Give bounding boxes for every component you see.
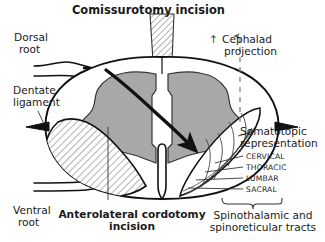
tracts-caption-line2: spinoreticular tracts [205, 222, 321, 234]
somatotopic-layer-thoracic: THORACIC [246, 164, 287, 173]
ventral-median-fissure [158, 144, 166, 199]
cordotomy-title-line2: incision [58, 221, 206, 233]
somatotopic-label-line2: representation [240, 138, 318, 150]
commissurotomy-title: Comissurotomy incision [72, 4, 212, 17]
somatotopic-layer-cervical: CERVICAL [246, 153, 285, 162]
cephalad-arrow-glyph: ↑ [209, 34, 218, 46]
dorsal-root-label-line2: root [19, 44, 40, 56]
somatotopic-layer-sacral: SACRAL [246, 186, 277, 195]
spinal-cord-diagram: Comissurotomy incision Dorsal root Denta… [0, 0, 325, 242]
cephalad-label-line2: projection [224, 46, 277, 58]
ventral-root-label-line2: root [18, 217, 39, 229]
tracts-brace [222, 198, 282, 209]
dentate-ligament-left [26, 122, 49, 131]
somatotopic-layer-lumbar: LUMBAR [246, 175, 279, 184]
dentate-ligament-label-line2: ligament [13, 97, 60, 109]
